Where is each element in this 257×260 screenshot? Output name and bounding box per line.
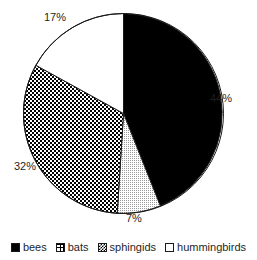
legend-label-hummingbirds: hummingbirds	[177, 242, 246, 253]
pie-label-bees: 44%	[210, 92, 232, 104]
legend-label-bees: bees	[23, 242, 47, 253]
legend-label-bats: bats	[68, 242, 89, 253]
legend-label-sphingids: sphingids	[110, 242, 156, 253]
legend-item-bees: bees	[11, 242, 47, 253]
legend-swatch-hummingbirds-icon	[165, 243, 174, 252]
legend-swatch-bats-icon	[56, 243, 65, 252]
legend-swatch-bees-icon	[11, 243, 20, 252]
legend-item-bats: bats	[56, 242, 89, 253]
pie-label-sphingids: 32%	[14, 160, 36, 172]
chart-legend: bees bats sphingids hummingbirds	[0, 238, 257, 256]
legend-item-sphingids: sphingids	[98, 242, 156, 253]
pie-label-bats: 7%	[126, 212, 142, 224]
legend-item-hummingbirds: hummingbirds	[165, 242, 246, 253]
pie-label-hummingbirds: 17%	[44, 11, 66, 23]
legend-swatch-sphingids-icon	[98, 243, 107, 252]
pie-chart-figure: 44% 7% 32% 17% bees bats sphingids hummi…	[0, 0, 257, 260]
